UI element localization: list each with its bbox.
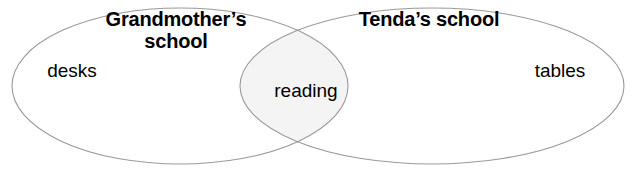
right-set-title: Tenda’s school <box>334 8 524 30</box>
right-set-item-tables: tables <box>500 60 620 81</box>
left-set-item-desks: desks <box>12 60 132 81</box>
left-set-title: Grandmother’s school <box>96 8 256 53</box>
overlap-item-reading: reading <box>246 80 366 101</box>
venn-diagram: Grandmother’s school Tenda’s school desk… <box>0 0 633 174</box>
